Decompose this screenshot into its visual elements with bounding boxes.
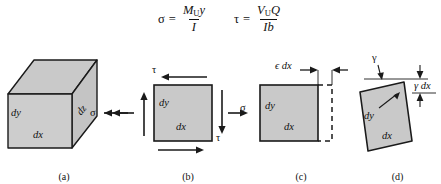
formula-normal-stress: σ = MUy I xyxy=(158,4,208,35)
panel-b-label-tau-right: τ xyxy=(216,132,220,143)
panel-d-label-dx: dx xyxy=(382,130,392,141)
panel-d-label-dy: dy xyxy=(364,110,374,121)
formula-normal-stress-relation: = xyxy=(169,12,180,27)
tau-arrow-right xyxy=(218,90,225,134)
panel-b: τ τ dy dx σ (b) xyxy=(128,52,248,184)
panel-a-caption: (a) xyxy=(0,171,128,182)
element-square xyxy=(154,85,212,141)
formula-shear-stress-lhs: τ xyxy=(234,12,243,27)
gamma-angle-arrow xyxy=(377,65,383,80)
panel-a-label-dy: dy xyxy=(11,107,21,118)
panel-d-caption: (d) xyxy=(354,171,441,182)
tau-arrow-bottom xyxy=(158,146,204,153)
panel-b-label-dy: dy xyxy=(159,97,169,108)
panel-c-graphic xyxy=(248,52,354,184)
formula-normal-stress-lhs: σ xyxy=(158,12,169,27)
panel-b-label-sigma-right: σ xyxy=(240,102,246,113)
panel-d: γ γ dx dy dx (d) xyxy=(354,52,441,184)
formula-shear-stress-num-tail: Q xyxy=(271,3,280,17)
panel-d-label-gamma: γ xyxy=(372,52,377,63)
formula-normal-stress-fraction: MUy I xyxy=(180,4,208,35)
panel-c-label-dx: dx xyxy=(284,121,294,132)
panel-a-label-sigma: σ xyxy=(90,107,96,118)
formula-shear-stress-num-main: V xyxy=(257,3,265,17)
panel-b-graphic xyxy=(128,52,248,184)
panel-b-label-tau-top: τ xyxy=(152,64,156,75)
tau-arrow-top xyxy=(161,73,207,80)
panel-c: ϵ dx dy dx (c) xyxy=(248,52,354,184)
formula-normal-stress-denominator: I xyxy=(189,19,199,35)
panel-b-caption: (b) xyxy=(128,171,248,182)
formula-shear-stress-relation: = xyxy=(243,12,254,27)
elongation-dashed-outline xyxy=(318,85,332,141)
panel-c-label-dy: dy xyxy=(265,100,275,111)
epsilon-dimension-line xyxy=(300,67,348,85)
formula-normal-stress-num-main: M xyxy=(183,3,193,17)
formula-normal-stress-num-tail: y xyxy=(199,3,205,17)
panel-a: dy dx dz σ (a) xyxy=(0,52,128,184)
panel-c-caption: (c) xyxy=(248,171,354,182)
formula-shear-stress-fraction: VUQ Ib xyxy=(254,4,283,35)
element-square xyxy=(260,85,318,141)
panel-a-label-dx: dx xyxy=(33,129,43,140)
formula-shear-stress: τ = VUQ Ib xyxy=(234,4,283,35)
formula-row: σ = MUy I τ = VUQ Ib xyxy=(0,4,441,46)
panel-c-label-epsilon-dx: ϵ dx xyxy=(275,60,292,71)
panel-d-label-gamma-dx: γ dx xyxy=(414,80,431,91)
formula-shear-stress-denominator: Ib xyxy=(260,19,276,35)
panel-a-graphic xyxy=(0,52,128,184)
formula-normal-stress-numerator: MUy xyxy=(180,4,208,19)
tau-arrow-left xyxy=(140,92,147,136)
panel-b-label-dx: dx xyxy=(176,121,186,132)
mechanics-stress-strain-figure: σ = MUy I τ = VUQ Ib xyxy=(0,0,441,184)
formula-shear-stress-numerator: VUQ xyxy=(254,4,283,19)
